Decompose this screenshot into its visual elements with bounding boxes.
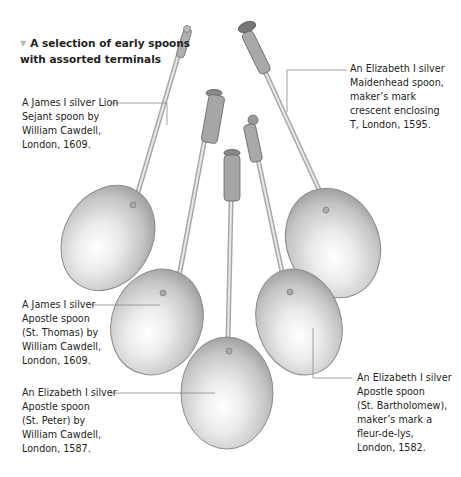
caption-lion-sejant: A James I silver Lion Sejant spoon by Wi… [22,96,118,152]
spoon-lion-sejant [42,26,192,308]
figure-title-text: A selection of early spoons with assorte… [20,37,190,65]
caption-st-bartholomew: An Elizabeth I silver Apostle spoon (St.… [357,371,452,455]
leader-line-maidenhead [287,70,347,112]
caption-maidenhead: An Elizabeth I silver Maidenhead spoon, … [350,62,445,132]
caption-st-peter: An Elizabeth I silver Apostle spoon (St.… [22,386,117,456]
caption-st-thomas: A James I silver Apostle spoon (St. Thom… [22,298,101,368]
figure-title: ▼A selection of early spoons with assort… [20,36,210,66]
triangle-marker-icon: ▼ [20,39,26,48]
